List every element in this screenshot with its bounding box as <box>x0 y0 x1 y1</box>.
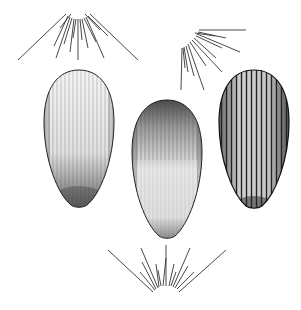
pappus-bottom <box>108 245 226 292</box>
seed-right <box>219 70 289 212</box>
seed-left <box>44 70 114 214</box>
seed-middle <box>132 100 202 240</box>
pappus-top-left <box>18 14 138 60</box>
seed-illustration <box>0 0 301 310</box>
